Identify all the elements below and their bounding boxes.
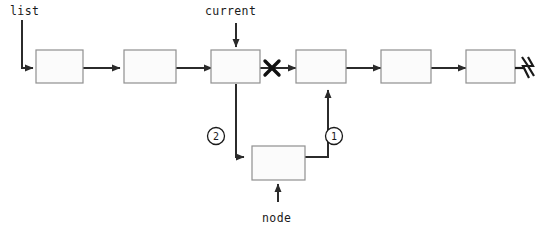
diagram-svg: 2 1 list current node (0, 0, 542, 235)
label-current: current (205, 4, 256, 18)
edge-list-to-node-1 (22, 20, 33, 68)
label-list: list (10, 4, 39, 18)
list-node-4 (296, 50, 346, 83)
list-node-5 (381, 50, 431, 83)
label-node: node (262, 211, 291, 225)
list-node-6 (466, 50, 515, 83)
edge-step-1-new-node-to-node4 (305, 90, 328, 157)
step-1-label: 1 (331, 131, 337, 142)
step-marker-1: 1 (326, 128, 343, 145)
list-node-3 (211, 50, 260, 83)
step-2-label: 2 (213, 131, 219, 142)
edge-step-2-node3-to-new-node (236, 84, 244, 157)
step-marker-2: 2 (208, 128, 225, 145)
diagram-canvas: 2 1 list current node (0, 0, 542, 235)
null-terminator-icon (515, 57, 534, 78)
new-node-box (252, 146, 305, 180)
list-node-1 (36, 50, 83, 83)
list-node-2 (124, 50, 176, 83)
